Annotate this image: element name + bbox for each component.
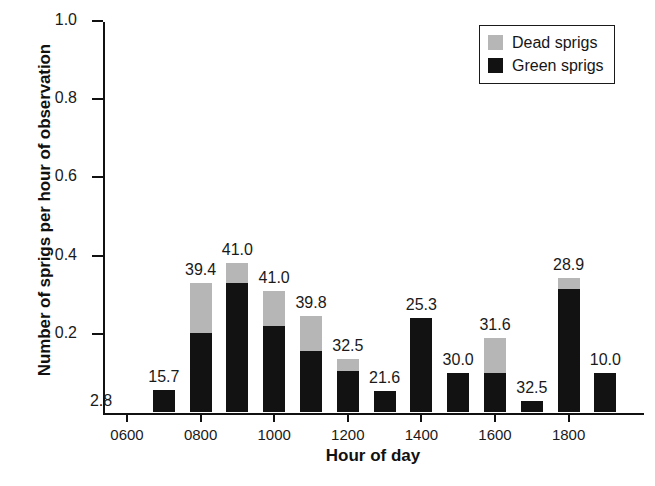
- bar-label-0900: 41.0: [222, 241, 253, 259]
- bar-1100[interactable]: [300, 316, 322, 412]
- bar-segment-dead-sprigs: [300, 316, 322, 350]
- legend-swatch-dead-sprigs: [488, 35, 503, 50]
- bar-segment-green-sprigs: [521, 401, 543, 412]
- x-axis-tick: [126, 413, 128, 422]
- bar-segment-dead-sprigs: [337, 359, 359, 372]
- chart-figure: Number of sprigs per hour of observation…: [0, 0, 655, 486]
- bar-segment-green-sprigs: [410, 318, 432, 412]
- bar-label-1600: 31.6: [479, 316, 510, 334]
- x-axis-tick-label: 0600: [110, 426, 143, 443]
- bar-segment-green-sprigs: [190, 333, 212, 412]
- bar-0900[interactable]: [226, 263, 248, 412]
- legend-item-green-sprigs: Green sprigs: [488, 54, 604, 77]
- y-axis-tick-label: 1.0: [55, 11, 77, 29]
- x-axis-tick-label: 1200: [331, 426, 364, 443]
- bar-1900[interactable]: [594, 373, 616, 412]
- bar-segment-dead-sprigs: [263, 291, 285, 326]
- bar-label-1100: 39.8: [295, 294, 326, 312]
- bar-1700[interactable]: [521, 401, 543, 412]
- legend-label-dead-sprigs: Dead sprigs: [512, 34, 597, 52]
- bar-1500[interactable]: [447, 373, 469, 412]
- bar-segment-green-sprigs: [153, 390, 175, 412]
- y-axis-title: Number of sprigs per hour of observation: [30, 0, 60, 420]
- x-axis-tick: [568, 413, 570, 422]
- x-axis-tick: [347, 413, 349, 422]
- bar-label-1800: 28.9: [553, 256, 584, 274]
- bar-segment-green-sprigs: [263, 326, 285, 412]
- x-axis-tick-label: 1400: [405, 426, 438, 443]
- y-axis-line: [103, 22, 105, 415]
- y-axis-tick-label: 0.4: [55, 246, 77, 264]
- bar-1800[interactable]: [558, 278, 580, 413]
- bar-1400[interactable]: [410, 318, 432, 412]
- bar-label-1700: 32.5: [516, 379, 547, 397]
- y-axis-tick: 0.2: [92, 333, 103, 335]
- bar-label-0800: 39.4: [185, 261, 216, 279]
- bar-label-1500: 30.0: [443, 351, 474, 369]
- y-axis-tick: 0.4: [92, 255, 103, 257]
- bar-label-1400: 25.3: [406, 296, 437, 314]
- y-axis-tick-label: 0.2: [55, 324, 77, 342]
- bar-1300[interactable]: [374, 391, 396, 412]
- y-axis-tick: 1.0: [92, 20, 103, 22]
- chart-legend: Dead sprigs Green sprigs: [479, 25, 615, 84]
- legend-item-dead-sprigs: Dead sprigs: [488, 31, 604, 54]
- bar-label-0700: 15.7: [148, 368, 179, 386]
- bar-segment-dead-sprigs: [190, 283, 212, 333]
- x-axis-tick-label: 0800: [184, 426, 217, 443]
- bar-segment-green-sprigs: [558, 289, 580, 412]
- x-axis-tick-label: 1800: [552, 426, 585, 443]
- bar-label-1200: 32.5: [332, 337, 363, 355]
- bar-segment-dead-sprigs: [558, 278, 580, 289]
- bar-segment-green-sprigs: [484, 373, 506, 412]
- legend-label-green-sprigs: Green sprigs: [512, 57, 604, 75]
- bar-label-1300: 21.6: [369, 369, 400, 387]
- bar-segment-green-sprigs: [337, 371, 359, 412]
- x-axis-tick-label: 1000: [258, 426, 291, 443]
- x-axis-tick: [273, 413, 275, 422]
- bar-1200[interactable]: [337, 359, 359, 412]
- bar-1600[interactable]: [484, 338, 506, 412]
- y-axis-tick: 0.8: [92, 98, 103, 100]
- bar-segment-green-sprigs: [594, 373, 616, 412]
- y-axis-tick: 0.6: [92, 176, 103, 178]
- bar-0800[interactable]: [190, 283, 212, 412]
- legend-swatch-green-sprigs: [488, 58, 503, 73]
- bar-segment-green-sprigs: [374, 391, 396, 412]
- x-axis-tick: [200, 413, 202, 422]
- x-axis-tick: [420, 413, 422, 422]
- bar-1000[interactable]: [263, 291, 285, 412]
- bar-label-1000: 41.0: [259, 269, 290, 287]
- y-axis-tick-label: 0.8: [55, 89, 77, 107]
- x-axis-line: [103, 413, 644, 415]
- x-axis-tick: [494, 413, 496, 422]
- bar-segment-dead-sprigs: [226, 263, 248, 283]
- bar-label-1900: 10.0: [590, 351, 621, 369]
- bar-0700[interactable]: [153, 390, 175, 412]
- bar-segment-green-sprigs: [300, 351, 322, 412]
- bar-segment-green-sprigs: [226, 283, 248, 412]
- bar-segment-dead-sprigs: [484, 338, 506, 372]
- bar-segment-green-sprigs: [447, 373, 469, 412]
- x-axis-tick-label: 1600: [478, 426, 511, 443]
- bar-label-0600: 2.8: [90, 392, 112, 410]
- y-axis-tick-label: 0.6: [55, 167, 77, 185]
- x-axis-title: Hour of day: [103, 446, 643, 466]
